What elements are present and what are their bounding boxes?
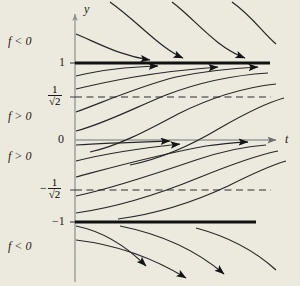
fraction-numerator: 1 [48,177,62,188]
tick-label-zero: 0 [58,133,64,145]
solution-curve [76,73,268,131]
solution-curve [76,67,258,112]
phase-portrait-svg [0,0,300,286]
minus-sign-lower: − [40,181,48,196]
solution-curve [76,144,180,161]
region-label-f-negative-top: f < 0 [8,35,31,47]
fraction-upper: 1 √2 [48,84,62,107]
solution-curve [76,34,150,60]
t-axis-label: t [285,133,288,145]
tick-label-one-over-sqrt-two: 1 √2 [48,84,62,107]
solution-curve [76,66,158,76]
curves-above-equilibrium-one [76,2,276,60]
solution-curve [110,2,183,58]
fraction-denominator: √2 [48,188,62,200]
solution-curve [172,2,245,58]
y-axis-label: y [84,3,89,15]
tick-label-minus-one: −1 [52,215,65,227]
tick-marks [70,63,75,222]
curves-between-equilibria [76,66,286,219]
fraction-denominator: √2 [48,95,62,107]
curves-below-equilibrium-minus-one [76,226,276,278]
fraction-lower: 1 √2 [48,177,62,200]
region-label-f-negative-bottom: f < 0 [8,240,31,252]
tick-label-one: 1 [59,56,65,68]
solution-curve [120,226,224,274]
fraction-numerator: 1 [48,84,62,95]
solution-curve [232,2,276,44]
solution-curve [76,151,278,213]
solution-curve [196,228,276,270]
tick-label-minus-one-over-sqrt-two: − 1 √2 [40,177,61,200]
solution-curve [76,240,186,278]
region-label-f-positive-lower: f > 0 [8,150,31,162]
phase-portrait-figure: y t 1 1 √2 0 − 1 √2 −1 f < 0 f > 0 f > 0… [0,0,300,286]
solution-curve [90,84,276,152]
region-label-f-positive-upper: f > 0 [8,110,31,122]
